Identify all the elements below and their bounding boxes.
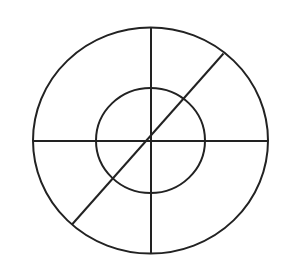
diagonal-line <box>72 54 224 225</box>
concentric-circles-diagram <box>0 0 296 272</box>
